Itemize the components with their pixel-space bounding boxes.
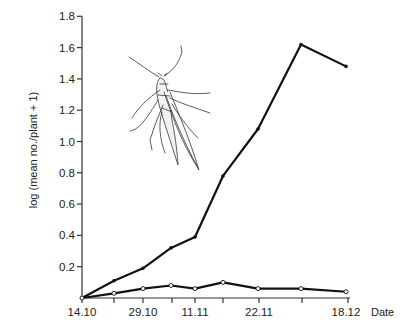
data-point xyxy=(169,283,173,287)
y-tick-label: 0.6 xyxy=(59,198,75,210)
y-tick-label: 0.8 xyxy=(59,167,75,179)
line-chart: 0.20.40.60.81.01.21.41.61.814.1029.1011.… xyxy=(0,0,414,329)
y-tick-label: 0.2 xyxy=(59,261,75,273)
y-tick-label: 0.4 xyxy=(59,229,76,241)
x-axis-label: Date xyxy=(371,306,394,318)
data-point xyxy=(256,287,260,291)
axes: 0.20.40.60.81.01.21.41.61.814.1029.1011.… xyxy=(59,10,360,318)
data-point xyxy=(344,290,348,294)
x-tick-label: 29.10 xyxy=(129,306,158,318)
data-point xyxy=(193,235,197,239)
data-point xyxy=(221,280,225,284)
data-point xyxy=(256,127,260,131)
data-point xyxy=(193,287,197,291)
data-point xyxy=(112,291,116,295)
y-tick-label: 1.6 xyxy=(59,42,75,54)
data-point xyxy=(141,266,145,270)
y-axis-label: log (mean no./plant + 1) xyxy=(27,92,39,209)
aphid-illustration xyxy=(129,46,210,170)
y-tick-label: 1.8 xyxy=(59,10,75,22)
data-point xyxy=(221,174,225,178)
data-point xyxy=(169,246,173,250)
data-point xyxy=(299,43,303,47)
origin-point xyxy=(80,296,84,300)
y-tick-label: 1.0 xyxy=(59,136,75,148)
series-group xyxy=(80,43,348,300)
x-tick-label: 14.10 xyxy=(68,306,97,318)
data-point xyxy=(344,65,348,69)
x-tick-label: 18.12 xyxy=(332,306,361,318)
y-tick-label: 1.2 xyxy=(59,104,75,116)
x-tick-label: 11.11 xyxy=(181,306,208,318)
series-filled-line xyxy=(82,43,348,298)
x-tick-label: 22.11 xyxy=(245,306,273,318)
data-point xyxy=(112,279,116,283)
y-tick-label: 1.4 xyxy=(59,73,76,85)
data-point xyxy=(141,287,145,291)
data-point xyxy=(299,287,303,291)
series-open-line xyxy=(82,280,348,298)
